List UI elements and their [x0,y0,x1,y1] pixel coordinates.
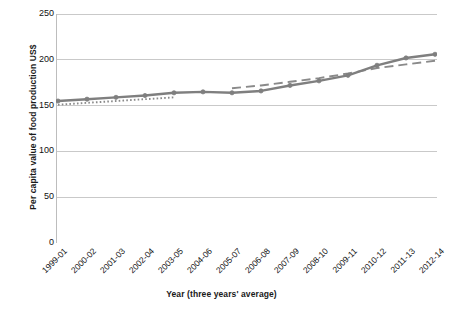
x-tick-label: 2012-14 [439,224,449,253]
x-axis-title: Year (three years' average) [0,289,443,299]
